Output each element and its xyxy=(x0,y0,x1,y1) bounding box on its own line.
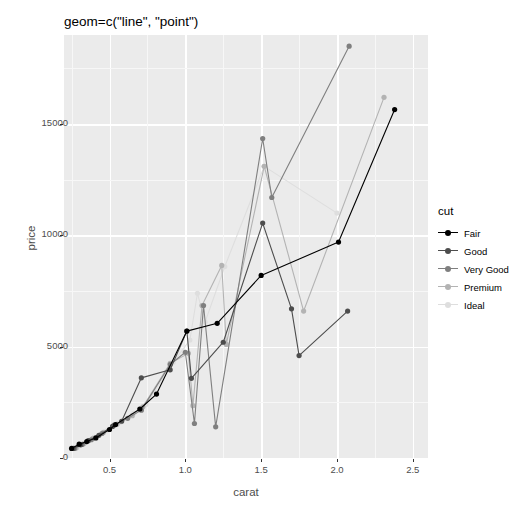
x-tick-mark xyxy=(413,459,414,462)
data-series-layer xyxy=(64,35,428,458)
legend-key-point xyxy=(445,302,451,308)
data-point xyxy=(262,164,267,169)
data-point xyxy=(189,376,194,381)
y-tick-mark xyxy=(60,458,63,459)
x-tick-label: 2.5 xyxy=(398,464,428,475)
data-point xyxy=(107,427,112,432)
legend-key-swatch xyxy=(438,242,458,260)
data-point xyxy=(336,239,341,244)
legend-item-premium[interactable]: Premium xyxy=(438,278,509,296)
data-point xyxy=(154,392,159,397)
data-point xyxy=(381,95,386,100)
data-point xyxy=(195,291,200,296)
legend-key-swatch xyxy=(438,296,458,314)
legend-title: cut xyxy=(438,205,509,217)
series-line xyxy=(78,166,337,447)
data-point xyxy=(69,446,74,451)
legend-item-ideal[interactable]: Ideal xyxy=(438,296,509,314)
legend-item-very-good[interactable]: Very Good xyxy=(438,260,509,278)
legend-key-point xyxy=(445,284,451,290)
data-point xyxy=(219,263,224,268)
data-point xyxy=(192,421,197,426)
legend-item-fair[interactable]: Fair xyxy=(438,224,509,242)
y-tick-label: 0 xyxy=(63,451,68,462)
y-tick-label: 5000 xyxy=(47,340,68,351)
data-point xyxy=(139,375,144,380)
series-ideal xyxy=(75,164,340,450)
legend-key-swatch xyxy=(438,278,458,296)
data-point xyxy=(77,442,82,447)
data-point xyxy=(260,136,265,141)
data-point xyxy=(137,406,142,411)
series-line xyxy=(73,223,348,448)
data-point xyxy=(334,211,339,216)
data-point xyxy=(259,273,264,278)
data-point xyxy=(392,107,397,112)
data-point xyxy=(215,321,220,326)
y-tick-mark xyxy=(60,124,63,125)
y-tick-label: 15000 xyxy=(42,117,68,128)
x-tick-label: 1.5 xyxy=(246,464,276,475)
data-point xyxy=(184,329,189,334)
x-tick-label: 0.5 xyxy=(95,464,125,475)
series-fair xyxy=(69,107,397,451)
legend-item-good[interactable]: Good xyxy=(438,242,509,260)
data-point xyxy=(201,303,206,308)
data-point xyxy=(289,306,294,311)
y-axis-title: price xyxy=(25,198,37,278)
legend-item-label: Good xyxy=(464,246,487,257)
series-very-good xyxy=(72,44,352,452)
data-point xyxy=(213,424,218,429)
legend-key-swatch xyxy=(438,260,458,278)
series-line xyxy=(75,46,350,448)
data-point xyxy=(260,221,265,226)
legend-key-point xyxy=(445,266,451,272)
series-line xyxy=(76,97,384,448)
y-tick-mark xyxy=(60,347,63,348)
legend-item-label: Very Good xyxy=(464,264,509,275)
legend: cut FairGoodVery GoodPremiumIdeal xyxy=(438,205,509,314)
x-axis-title: carat xyxy=(64,486,428,498)
data-point xyxy=(301,308,306,313)
legend-key-point xyxy=(445,230,451,236)
y-tick-label: 10000 xyxy=(42,228,68,239)
legend-key-point xyxy=(445,248,451,254)
data-point xyxy=(347,44,352,49)
chart-root: geom=c("line", "point") 050001000015000 … xyxy=(0,0,528,512)
x-tick-label: 2.0 xyxy=(322,464,352,475)
x-tick-mark xyxy=(337,459,338,462)
legend-item-label: Ideal xyxy=(464,300,485,311)
data-point xyxy=(296,353,301,358)
x-tick-label: 1.0 xyxy=(170,464,200,475)
data-point xyxy=(84,439,89,444)
legend-key-swatch xyxy=(438,224,458,242)
legend-item-label: Fair xyxy=(464,228,480,239)
series-premium xyxy=(74,95,387,451)
data-point xyxy=(183,350,188,355)
data-point xyxy=(269,195,274,200)
series-line xyxy=(72,110,395,449)
x-tick-mark xyxy=(261,459,262,462)
chart-title: geom=c("line", "point") xyxy=(64,14,198,29)
y-tick-mark xyxy=(60,235,63,236)
legend-item-list: FairGoodVery GoodPremiumIdeal xyxy=(438,224,509,314)
data-point xyxy=(221,340,226,345)
x-tick-mark xyxy=(185,459,186,462)
data-point xyxy=(345,308,350,313)
legend-item-label: Premium xyxy=(464,282,502,293)
data-point xyxy=(113,422,118,427)
data-point xyxy=(93,435,98,440)
x-tick-mark xyxy=(110,459,111,462)
plot-panel xyxy=(64,35,428,458)
